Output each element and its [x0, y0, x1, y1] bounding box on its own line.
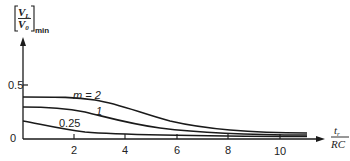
chart-canvas: 0.5 0 2 4 6 8 10 m = 2 1 0.25 VL V0 min … — [0, 0, 350, 161]
x-tick-label-2: 2 — [71, 144, 77, 156]
x-label-denominator: RC — [330, 138, 346, 150]
curve-label-m-1: 1 — [96, 105, 102, 117]
curve-label-m-0.25: 0.25 — [59, 117, 80, 129]
y-tick-label-0.5: 0.5 — [8, 79, 23, 91]
x-axis-arrow-icon — [316, 136, 325, 142]
y-axis-arrow-icon — [20, 37, 26, 46]
y-tick-label-0: 0 — [10, 132, 16, 144]
right-bracket — [31, 6, 34, 31]
x-tick-label-6: 6 — [174, 144, 180, 156]
x-tick-label-10: 10 — [274, 145, 286, 157]
curve-label-m-2: m = 2 — [73, 89, 101, 101]
x-tick-label-8: 8 — [225, 144, 231, 156]
y-axis-label: VL V0 min — [15, 6, 49, 35]
x-label-numerator: tr — [334, 124, 340, 138]
y-label-suffix: min — [35, 26, 49, 35]
y-label-denominator: V0 — [18, 18, 29, 32]
x-axis-label: tr RC — [330, 124, 349, 150]
x-tick-label-4: 4 — [122, 144, 128, 156]
